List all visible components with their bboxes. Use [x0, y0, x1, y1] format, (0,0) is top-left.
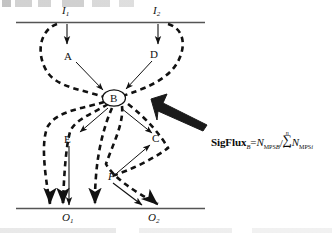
formula-numerator-sub: MPS	[264, 144, 276, 150]
scan-artifact-bottom	[0, 228, 332, 233]
edge-a-to-b	[76, 62, 103, 90]
highlight-arrow	[151, 94, 207, 131]
edge-d-to-b	[126, 61, 152, 89]
formula-denominator-sub: MPS	[299, 144, 311, 150]
sigflux-equation: SigFluxB=NMPSB/n∑i=1NMPSi	[211, 130, 313, 150]
node-label-e[interactable]: E	[64, 134, 71, 145]
formula-sum-lower: i=1	[283, 143, 292, 149]
flow-path-right-lower	[112, 104, 168, 176]
formula-divider: /	[280, 137, 283, 149]
input-label-i1: I1	[62, 5, 69, 18]
output-label-o2: O2	[148, 212, 159, 225]
flow-path-b-to-o1-inner	[63, 104, 108, 203]
input-label-i2: I2	[153, 5, 160, 18]
output-label-o1: O1	[62, 212, 73, 225]
formula-function-name: SigFlux	[211, 136, 246, 148]
node-label-d[interactable]: D	[150, 49, 158, 60]
node-label-f[interactable]: F	[108, 171, 115, 182]
flow-path-left-upper	[41, 24, 104, 97]
formula-denominator-sub2: i	[311, 143, 313, 150]
node-label-b[interactable]: B	[110, 93, 117, 104]
formula-summation: n∑i=1	[283, 130, 292, 149]
figure-canvas: I1 I2 A D B E C F O1 O2 SigFluxB=NMPSB/n…	[0, 0, 332, 237]
diagram-svg	[0, 0, 332, 237]
flow-path-b-to-f-to-o2	[106, 106, 158, 204]
formula-numerator-var: N	[256, 136, 263, 148]
node-label-a[interactable]: A	[64, 51, 72, 62]
node-label-c[interactable]: C	[152, 133, 159, 144]
